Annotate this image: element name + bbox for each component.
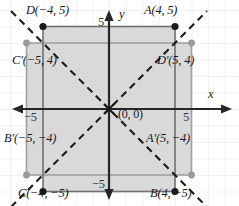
tick-label-y-positive-5: 5 — [98, 16, 104, 29]
tick-label-x-negative-5: −5 — [24, 111, 37, 124]
label-point-D: D(−4, 5) — [26, 4, 69, 17]
point-A — [171, 23, 178, 30]
label-point-D-prime: D′(5, 4) — [157, 54, 194, 67]
tick-label-y-negative-5: −5 — [92, 178, 105, 191]
label-point-C-prime: C′(−5, 4) — [12, 54, 57, 67]
label-point-B: B(4, −5) — [150, 187, 192, 200]
label-y-axis: y — [119, 8, 124, 21]
label-point-B-prime: B′(−5, −4) — [4, 132, 56, 145]
label-point-A: A(4, 5) — [144, 4, 177, 17]
coordinate-plane-svg — [0, 0, 239, 206]
label-point-A-prime: A′(5, −4) — [146, 132, 190, 145]
point-A-prime — [188, 172, 195, 179]
coordinate-plane-figure: D(−4, 5) A(4, 5) C′(−5, 4) D′(5, 4) B′(−… — [0, 0, 239, 206]
label-point-C: C(−4, −5) — [18, 187, 68, 200]
tick-label-x-positive-5: 5 — [183, 111, 189, 124]
point-D — [39, 23, 46, 30]
point-C-prime — [23, 40, 30, 47]
label-origin: (0, 0) — [118, 108, 143, 120]
point-D-prime — [188, 40, 195, 47]
point-B-prime — [23, 172, 30, 179]
label-x-axis: x — [208, 88, 213, 101]
